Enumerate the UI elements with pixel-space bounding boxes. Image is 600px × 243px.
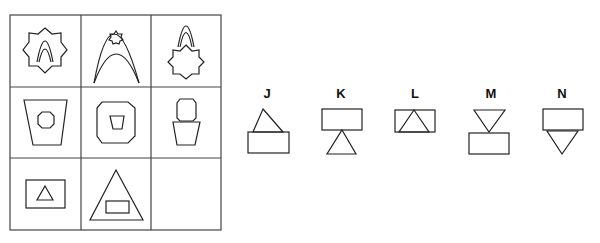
- option-M-shape: [469, 110, 509, 154]
- option-N-label[interactable]: N: [552, 86, 572, 101]
- cell-octagon-trapezoid: [97, 102, 135, 143]
- option-J-shape: [248, 109, 289, 153]
- cell-triangle-rectangle: [90, 170, 143, 220]
- option-L-label[interactable]: L: [405, 86, 425, 101]
- cell-trapezoid-octagon: [24, 100, 67, 145]
- cell-star-arch: [23, 28, 67, 73]
- cell-rectangle-triangle: [26, 180, 65, 208]
- option-K-shape: [322, 109, 362, 154]
- option-J-label[interactable]: J: [257, 86, 277, 101]
- option-K-label[interactable]: K: [331, 86, 351, 101]
- cell-arch-on-star: [168, 26, 204, 79]
- option-L-shape: [395, 110, 435, 132]
- puzzle-figure: [0, 0, 600, 243]
- cell-missing: [152, 159, 220, 229]
- cell-arch-star: [94, 31, 139, 83]
- cell-octagon-on-trapezoid: [173, 99, 200, 145]
- option-N-shape: [543, 109, 583, 154]
- option-M-label[interactable]: M: [481, 86, 501, 101]
